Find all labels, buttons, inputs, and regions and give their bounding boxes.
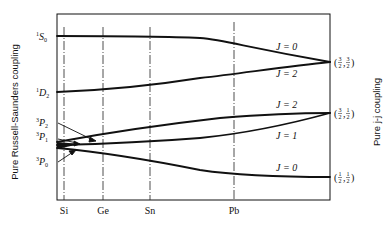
arrow-3p2-head	[89, 137, 96, 142]
state-label-12-12: ( 1 2 , 1 2 )	[334, 171, 354, 184]
svg-text:1: 1	[339, 171, 342, 177]
svg-text:,: ,	[343, 57, 346, 68]
j-label-1s0: J = 0	[276, 41, 297, 52]
svg-text:2: 2	[347, 63, 350, 69]
svg-text:2: 2	[347, 178, 350, 184]
coupling-diagram: 1S0 1D2 3P2 3P1 3P0 J = 0 J = 2 J = 2 J …	[0, 0, 390, 227]
j-label-3p2: J = 2	[276, 99, 297, 110]
term-1s0: 1S0	[36, 31, 47, 43]
svg-text:2: 2	[339, 63, 342, 69]
left-axis-label: Pure Russell-Saunders coupling	[9, 44, 20, 180]
right-axis-label: Pure j-j coupling	[371, 78, 382, 146]
svg-text:3: 3	[339, 56, 342, 62]
svg-text:2: 2	[347, 114, 350, 120]
svg-text:): )	[351, 108, 354, 120]
j-label-1d2: J = 2	[276, 68, 297, 79]
svg-text:(: (	[334, 108, 338, 120]
svg-text:(: (	[334, 172, 338, 184]
j-label-3p0: J = 0	[276, 162, 297, 173]
arrow-3p2	[58, 123, 93, 140]
svg-text:,: ,	[343, 108, 346, 119]
term-3p2: 3P2	[36, 117, 48, 129]
svg-text:3: 3	[339, 107, 342, 113]
term-1d2: 1D2	[36, 87, 49, 99]
term-3p0: 3P0	[36, 156, 48, 168]
svg-text:1: 1	[347, 107, 350, 113]
state-label-32-12: ( 3 2 , 1 2 )	[334, 107, 354, 120]
element-label-sn: Sn	[145, 205, 156, 216]
svg-text:2: 2	[339, 114, 342, 120]
svg-text:3: 3	[347, 56, 350, 62]
svg-text:2: 2	[339, 178, 342, 184]
term-3p1: 3P1	[36, 131, 48, 143]
svg-text:1: 1	[347, 171, 350, 177]
svg-text:(: (	[334, 57, 338, 69]
element-label-pb: Pb	[229, 205, 240, 216]
svg-text:,: ,	[343, 172, 346, 183]
j-label-3p1: J = 1	[276, 130, 297, 141]
state-label-32-32: ( 3 2 , 3 2 )	[334, 56, 354, 69]
element-label-ge: Ge	[97, 205, 109, 216]
element-label-si: Si	[60, 205, 69, 216]
svg-text:): )	[351, 172, 354, 184]
svg-text:): )	[351, 57, 354, 69]
